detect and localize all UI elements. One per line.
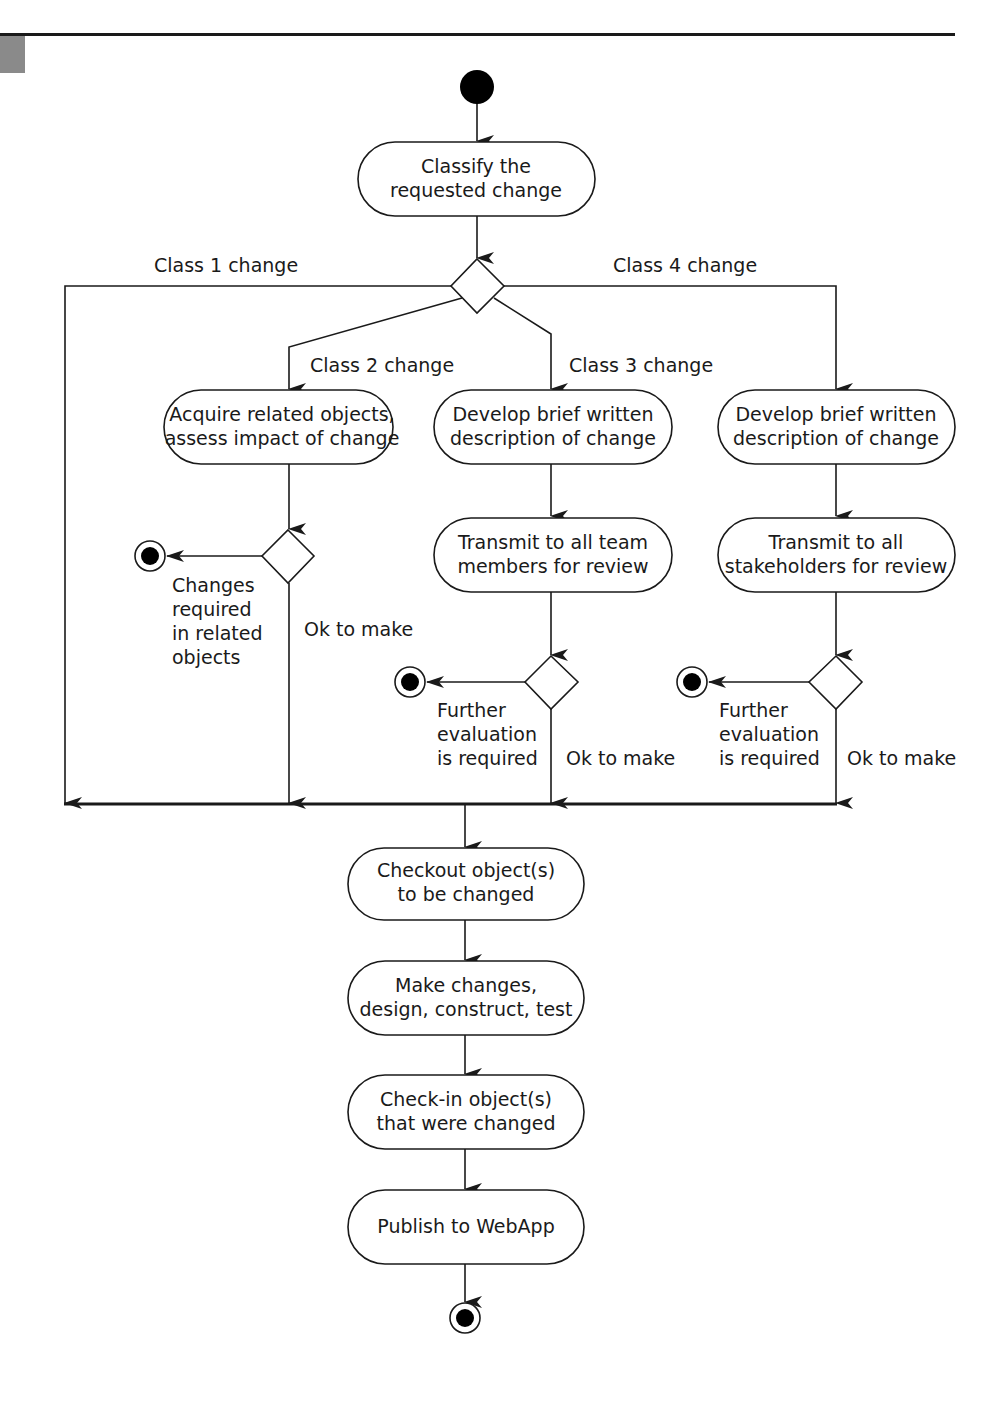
checkout-line1: Checkout object(s) — [377, 859, 555, 881]
guard-c4-ok: Ok to make — [847, 747, 956, 769]
decision-class — [451, 259, 504, 313]
final-node-c2 — [135, 541, 165, 571]
final-node-c3 — [395, 667, 425, 697]
checkout-line2: to be changed — [398, 883, 535, 905]
classify-line1: Classify the — [421, 155, 531, 177]
develop4-line2: description of change — [733, 427, 939, 449]
decision-class2-impact — [262, 530, 314, 583]
label-class2: Class 2 change — [310, 354, 454, 376]
label-class4: Class 4 change — [613, 254, 757, 276]
transmit-team-line2: members for review — [457, 555, 648, 577]
publish-line1: Publish to WebApp — [377, 1215, 554, 1237]
guard-c2-reject-1: Changes — [172, 574, 255, 596]
transmit-stake-line1: Transmit to all — [768, 531, 904, 553]
checkin-line1: Check-in object(s) — [380, 1088, 552, 1110]
decision-class4-review — [809, 656, 862, 709]
acquire-line1: Acquire related objects, — [169, 403, 394, 425]
guard-c3-reject-1: Further — [437, 699, 506, 721]
initial-node — [460, 70, 494, 104]
guard-c3-reject-3: is required — [437, 747, 538, 769]
guard-c4-reject-1: Further — [719, 699, 788, 721]
make-line2: design, construct, test — [360, 998, 573, 1020]
guard-c3-reject-2: evaluation — [437, 723, 537, 745]
guard-c4-reject-2: evaluation — [719, 723, 819, 745]
checkin-line2: that were changed — [377, 1112, 556, 1134]
flow-class3 — [494, 298, 551, 389]
acquire-line2: assess impact of change — [165, 427, 400, 449]
make-line1: Make changes, — [395, 974, 537, 996]
develop3-line2: description of change — [450, 427, 656, 449]
decision-class3-review — [525, 656, 578, 709]
develop4-line1: Develop brief written — [735, 403, 936, 425]
guard-c2-reject-3: in related — [172, 622, 263, 644]
final-node-end — [450, 1303, 480, 1333]
guard-c2-reject-2: required — [172, 598, 252, 620]
guard-c2-reject-4: objects — [172, 646, 240, 668]
classify-line2: requested change — [390, 179, 562, 201]
develop3-line1: Develop brief written — [452, 403, 653, 425]
transmit-stake-line2: stakeholders for review — [725, 555, 947, 577]
transmit-team-line1: Transmit to all team — [457, 531, 648, 553]
final-node-c4 — [677, 667, 707, 697]
label-class3: Class 3 change — [569, 354, 713, 376]
label-class1: Class 1 change — [154, 254, 298, 276]
guard-c3-ok: Ok to make — [566, 747, 675, 769]
guard-c4-reject-3: is required — [719, 747, 820, 769]
activity-diagram: Classify the requested change Acquire re… — [0, 0, 1002, 1402]
guard-c2-ok: Ok to make — [304, 618, 413, 640]
